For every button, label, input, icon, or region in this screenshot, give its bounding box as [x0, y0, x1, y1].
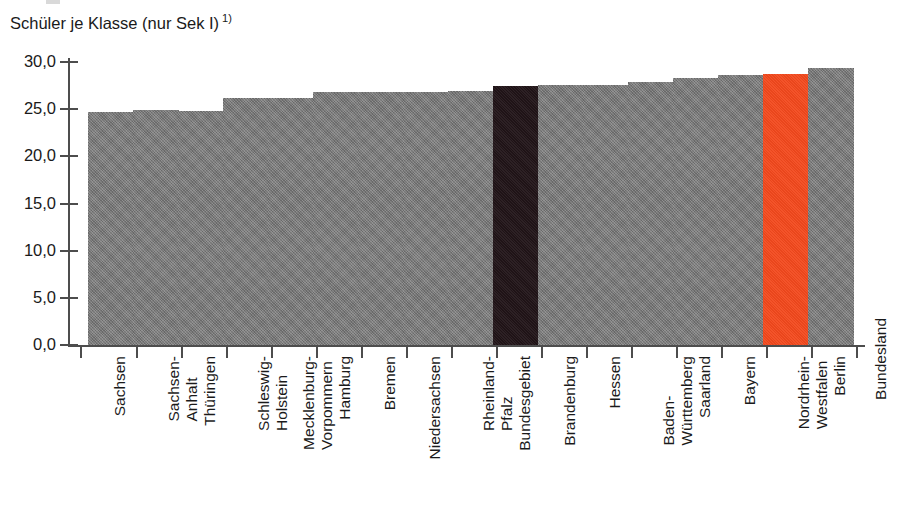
x-axis-category-label-line: Hessen: [606, 356, 623, 409]
bar-sachsen[interactable]: [88, 112, 134, 345]
x-axis-tick-mark: [631, 347, 633, 358]
x-axis-category-label: Sachsen-Anhalt: [165, 356, 200, 421]
x-axis-category-label: Berlin: [831, 356, 848, 396]
x-axis-category-label-line: Nordrhein-: [795, 356, 813, 429]
x-axis-category-label: Saarland: [696, 356, 713, 418]
x-axis-tick-mark: [766, 347, 768, 358]
x-axis-category-label-line: Mecklenburg-: [300, 356, 318, 450]
x-axis-category-label-line: Brandenburg: [561, 356, 578, 446]
x-axis-tick-mark: [586, 347, 588, 358]
bar-nordrhein-westfalen[interactable]: [763, 74, 809, 345]
bar-saarland[interactable]: [673, 78, 719, 345]
x-axis-category-label: Schleswig-Holstein: [255, 356, 290, 431]
x-axis-category-label: Baden-Württemberg: [660, 356, 695, 446]
bar-hessen[interactable]: [583, 85, 629, 345]
y-axis-tick-label: 30,0: [0, 53, 56, 70]
bar-sachsen-anhalt[interactable]: [133, 110, 179, 345]
y-axis-tick-label: 5,0: [0, 289, 56, 306]
bar-mecklenburg-vorpommern[interactable]: [268, 98, 314, 345]
x-axis-category-label-line: Thüringen: [201, 356, 218, 426]
x-axis-tick-mark: [856, 347, 858, 358]
bar-th-ringen[interactable]: [178, 111, 224, 345]
x-axis-category-label-line: Berlin: [831, 356, 848, 396]
x-axis-category-label: Rheinland-Pfalz: [480, 356, 515, 431]
bar-bremen[interactable]: [358, 92, 404, 345]
y-axis-tick-labels: 0,05,010,015,020,025,030,0: [0, 0, 56, 511]
x-axis-tick-mark: [721, 347, 723, 358]
x-axis-category-label-line: Rheinland-: [480, 356, 498, 431]
x-axis-tick-mark: [226, 347, 228, 358]
x-axis-category-label: Brandenburg: [561, 356, 578, 446]
x-axis-category-label-line: Schleswig-: [255, 356, 273, 431]
x-axis-category-label-line: Sachsen-: [165, 356, 183, 421]
x-axis-category-label: Sachsen: [111, 356, 128, 416]
x-axis-tick-mark: [451, 347, 453, 358]
x-axis-category-label: Nordrhein-Westfalen: [795, 356, 830, 429]
x-axis-category-label-line: Bayern: [741, 356, 758, 405]
bar-rheinland-pfalz[interactable]: [448, 91, 494, 345]
x-axis-tick-mark: [136, 347, 138, 358]
chart-title-footnote-marker: 1): [222, 12, 232, 24]
x-axis-category-label-line: Holstein: [273, 356, 291, 431]
x-axis-category-label-line: Sachsen: [111, 356, 128, 416]
x-axis-category-label-line: Bremen: [381, 356, 398, 410]
x-axis-category-label: Mecklenburg-Vorpommern: [300, 356, 335, 450]
x-axis-line: [68, 345, 865, 347]
x-axis-category-label-line: Bundesgebiet: [516, 356, 533, 451]
x-axis-category-label-line: Vorpommern: [318, 356, 336, 450]
x-axis-tick-mark: [406, 347, 408, 358]
bar-berlin[interactable]: [808, 68, 854, 345]
x-axis-category-label: Hessen: [606, 356, 623, 409]
bar-bayern[interactable]: [718, 75, 764, 345]
bar-schleswig-holstein[interactable]: [223, 98, 269, 345]
x-axis-category-label: Bayern: [741, 356, 758, 405]
x-axis-title: Bundesland: [872, 318, 889, 400]
x-axis-category-label-line: Pfalz: [498, 356, 516, 431]
x-axis-category-label-line: Anhalt: [183, 356, 201, 421]
y-axis-tick-label: 0,0: [0, 336, 56, 353]
bar-brandenburg[interactable]: [538, 85, 584, 345]
x-axis-category-label-line: Hamburg: [336, 356, 353, 420]
x-axis-tick-mark: [541, 347, 543, 358]
x-axis-category-label-line: Saarland: [696, 356, 713, 418]
x-axis-category-label-line: Baden-: [660, 356, 678, 446]
x-axis-category-label: Bundesgebiet: [516, 356, 533, 451]
x-axis-category-label: Thüringen: [201, 356, 218, 426]
x-axis-category-label: Niedersachsen: [426, 356, 443, 459]
bar-bundesgebiet[interactable]: [493, 86, 539, 345]
bar-hamburg[interactable]: [313, 92, 359, 345]
y-axis-tick-label: 20,0: [0, 147, 56, 164]
bar-baden-w-rttemberg[interactable]: [628, 82, 674, 345]
x-axis-category-label-line: Westfalen: [813, 356, 831, 429]
y-axis-tick-label: 10,0: [0, 242, 56, 259]
x-axis-category-label-line: Württemberg: [678, 356, 696, 446]
plot-area: [68, 62, 865, 345]
x-axis-tick-mark: [80, 347, 82, 358]
x-axis-category-label-line: Niedersachsen: [426, 356, 443, 459]
y-axis-tick-label: 15,0: [0, 195, 56, 212]
x-axis-category-label: Hamburg: [336, 356, 353, 420]
bar-niedersachsen[interactable]: [403, 92, 449, 345]
y-axis-tick-label: 25,0: [0, 100, 56, 117]
x-axis-tick-mark: [361, 347, 363, 358]
x-axis-category-label: Bremen: [381, 356, 398, 410]
